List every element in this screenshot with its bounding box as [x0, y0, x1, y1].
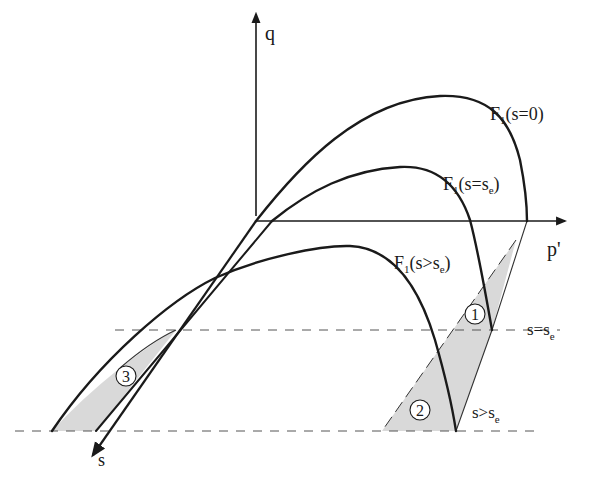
label-f1-s-0: F1(s=0) [490, 104, 544, 126]
diagram-canvas: q p' s F1(s=0) F1(s=se) F1(s>se) s=se s>… [0, 0, 593, 486]
label-f1-s-greater-se: F1(s>se) [394, 253, 451, 275]
svg-text:2: 2 [416, 402, 424, 419]
label-f1-s-se: F1(s=se) [443, 174, 500, 196]
region-3-shade [52, 330, 176, 431]
svg-text:3: 3 [122, 368, 130, 385]
region-3-badge: 3 [116, 366, 136, 386]
curve-f1-s-se-left-leg [96, 221, 272, 431]
q-axis-label: q [265, 22, 275, 45]
label-s-equals-se: s=se [527, 320, 555, 342]
label-s-greater-se: s>se [472, 403, 500, 425]
region-1-badge: 1 [465, 304, 485, 324]
region-2-badge: 2 [410, 400, 430, 420]
svg-text:1: 1 [471, 306, 479, 323]
yield-surface-diagram: q p' s F1(s=0) F1(s=se) F1(s>se) s=se s>… [0, 0, 593, 486]
p-axis-label: p' [547, 238, 561, 261]
s-axis-label: s [98, 450, 105, 470]
